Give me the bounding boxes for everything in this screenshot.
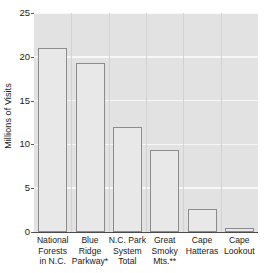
x-axis-tick-mark [109,13,110,232]
y-axis-tick-label: 0 [25,227,30,237]
x-axis-line [31,232,258,233]
x-axis-tick-mark [183,13,184,232]
bar [76,63,105,232]
y-axis-title-text: Millions of Visits [3,83,13,149]
x-axis-tick-mark [146,13,147,232]
y-axis-tick-mark [31,57,34,58]
y-axis-tick-mark [31,144,34,145]
bar [188,209,217,232]
bar-chart: Millions of Visits 0510152025 National F… [0,0,267,273]
y-axis-tick-label: 10 [19,139,30,149]
y-axis-tick-mark [31,232,34,233]
x-axis-tick-mark [221,13,222,232]
x-axis-category-labels: National Forests in N.C.Blue Ridge Parkw… [34,235,258,273]
bar [150,150,179,232]
y-axis-tick-label: 5 [25,183,30,193]
x-axis-category-label: Cape Lookout [219,235,260,256]
y-axis-tick-mark [31,13,34,14]
y-axis-tick-label: 20 [19,52,30,62]
y-axis-tick-mark [31,101,34,102]
x-axis-category-label: N.C. Park System Total [107,235,148,267]
y-axis-tick-label: 15 [19,96,30,106]
x-axis-category-label: Blue Ridge Parkway* [69,235,110,267]
x-axis-category-label: Great Smoky Mts.** [144,235,185,267]
x-axis-tick-mark [71,13,72,232]
x-axis-category-label: National Forests in N.C. [32,235,73,267]
y-axis-tick-labels: 0510152025 [14,0,30,240]
x-axis-category-label: Cape Hatteras [181,235,222,256]
bar [113,127,142,232]
y-axis-tick-mark [31,188,34,189]
y-axis-tick-label: 25 [19,8,30,18]
bar [38,48,67,232]
